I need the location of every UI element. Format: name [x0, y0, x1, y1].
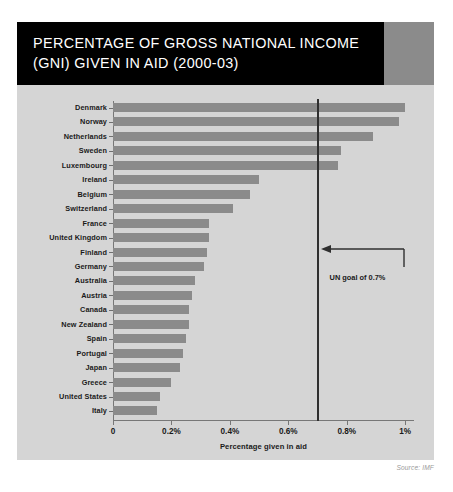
category-label: Switzerland — [11, 204, 107, 213]
category-label: Finland — [11, 248, 107, 257]
category-label: Netherlands — [11, 132, 107, 141]
category-tick — [109, 108, 113, 109]
category-label: Germany — [11, 262, 107, 271]
bar — [113, 219, 209, 228]
category-label: Portugal — [11, 349, 107, 358]
x-tick — [113, 421, 114, 425]
category-tick — [109, 238, 113, 239]
chart-figure: PERCENTAGE OF GROSS NATIONAL INCOME (GNI… — [0, 0, 453, 492]
category-tick — [109, 397, 113, 398]
category-tick — [109, 252, 113, 253]
bar — [113, 363, 180, 372]
bar — [113, 103, 405, 112]
x-axis-title: Percentage given in aid — [113, 442, 414, 451]
bar — [113, 334, 186, 343]
category-label: Denmark — [11, 103, 107, 112]
category-tick — [109, 165, 113, 166]
category-tick — [109, 368, 113, 369]
category-tick — [109, 382, 113, 383]
category-label: Italy — [11, 406, 107, 415]
bar — [113, 378, 171, 387]
category-label: Belgium — [11, 190, 107, 199]
category-tick — [109, 339, 113, 340]
x-tick-label: 0 — [111, 427, 116, 436]
source-note: Source: IMF — [396, 464, 434, 471]
un-goal-label: UN goal of 0.7% — [330, 273, 386, 282]
plot-area: DenmarkNorwayNetherlandsSwedenLuxembourg… — [17, 85, 434, 460]
category-label: Australia — [11, 276, 107, 285]
category-label: Ireland — [11, 175, 107, 184]
bar — [113, 175, 259, 184]
x-tick-label: 0.8% — [337, 427, 356, 436]
category-tick — [109, 209, 113, 210]
bar — [113, 262, 204, 271]
category-tick — [109, 310, 113, 311]
bar — [113, 276, 195, 285]
x-tick — [347, 421, 348, 425]
x-tick — [230, 421, 231, 425]
x-tick-label: 0.4% — [221, 427, 240, 436]
bar — [113, 190, 250, 199]
category-label: Spain — [11, 334, 107, 343]
category-tick — [109, 122, 113, 123]
bar — [113, 320, 189, 329]
category-label: United Kingdom — [11, 233, 107, 242]
bar — [113, 392, 160, 401]
category-label: New Zealand — [11, 320, 107, 329]
chart-title-bar: PERCENTAGE OF GROSS NATIONAL INCOME (GNI… — [17, 22, 384, 85]
page-title: PERCENTAGE OF GROSS NATIONAL INCOME (GNI… — [33, 33, 384, 73]
category-tick — [109, 324, 113, 325]
bar — [113, 146, 341, 155]
x-tick-label: 0.2% — [162, 427, 181, 436]
category-label: Luxembourg — [11, 161, 107, 170]
category-tick — [109, 151, 113, 152]
category-label: Canada — [11, 305, 107, 314]
category-tick — [109, 353, 113, 354]
bar — [113, 204, 233, 213]
title-side-block — [384, 22, 434, 85]
category-tick — [109, 223, 113, 224]
category-label: France — [11, 219, 107, 228]
category-label: Norway — [11, 117, 107, 126]
x-tick-label: 0.6% — [279, 427, 298, 436]
category-tick — [109, 136, 113, 137]
bar — [113, 161, 338, 170]
category-tick — [109, 194, 113, 195]
bar — [113, 406, 157, 415]
category-label: Sweden — [11, 146, 107, 155]
category-tick — [109, 411, 113, 412]
bar — [113, 248, 207, 257]
bar — [113, 305, 189, 314]
category-label: Greece — [11, 378, 107, 387]
category-tick — [109, 295, 113, 296]
category-tick — [109, 180, 113, 181]
category-label: United States — [11, 392, 107, 401]
bar — [113, 117, 399, 126]
category-tick — [109, 266, 113, 267]
bar — [113, 233, 209, 242]
bar — [113, 291, 192, 300]
x-tick — [171, 421, 172, 425]
bar — [113, 132, 373, 141]
category-tick — [109, 281, 113, 282]
bar — [113, 349, 183, 358]
category-label: Japan — [11, 363, 107, 372]
chart-panel: DenmarkNorwayNetherlandsSwedenLuxembourg… — [17, 85, 434, 460]
x-axis-line — [113, 420, 414, 421]
x-tick — [288, 421, 289, 425]
x-tick-label: 1% — [399, 427, 411, 436]
category-label: Austria — [11, 291, 107, 300]
x-tick — [405, 421, 406, 425]
